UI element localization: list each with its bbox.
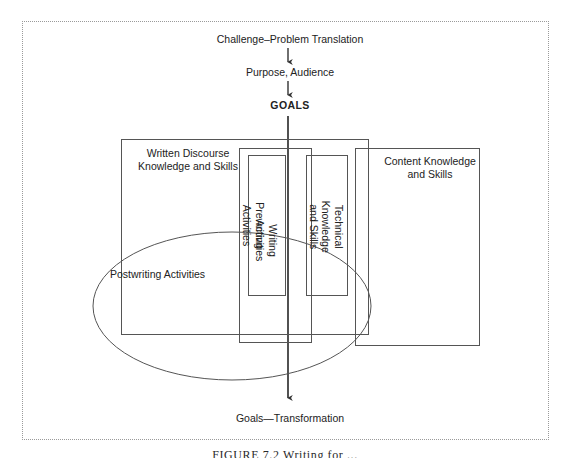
label-written-discourse-knowledge-and-skills: Written Discourse Knowledge and Skills [128,147,248,173]
label-technical-knowledge-and-skills-text: Technical Knowledge and Skills [307,201,345,253]
label-technical-knowledge-and-skills: Technical Knowledge and Skills [306,152,346,302]
label-goals: GOALS [235,99,345,112]
label-goals-transformation: Goals—Transformation [190,412,390,425]
label-writing-activities: Writing Activities [254,175,280,305]
figure-outer-dotted-border [22,21,549,440]
label-writing-activities-text: Writing Activities [255,219,280,260]
label-content-knowledge-and-skills: Content Knowledge and Skills [381,155,479,181]
label-challenge-problem-translation: Challenge–Problem Translation [185,33,395,46]
figure-root: Challenge–Problem Translation Purpose, A… [0,0,570,458]
label-purpose-audience: Purpose, Audience [215,66,365,79]
figure-caption: FIGURE 7.2 Writing for ... [0,448,570,458]
label-postwriting-activities: Postwriting Activities [110,268,240,281]
